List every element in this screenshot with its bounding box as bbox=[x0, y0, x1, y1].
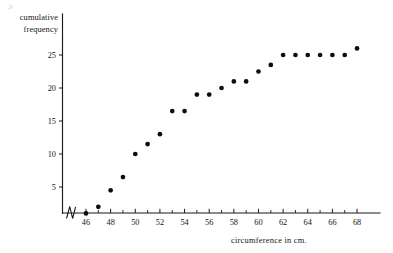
data-point bbox=[305, 53, 310, 58]
y-tick-label-20: 20 bbox=[48, 84, 56, 93]
data-point bbox=[330, 53, 335, 58]
data-point bbox=[355, 46, 360, 51]
x-axis-tick-labels: 464850525456586062646668 bbox=[82, 218, 361, 227]
data-point bbox=[318, 53, 323, 58]
x-axis-title: circumference in cm. bbox=[231, 236, 307, 245]
x-tick-label-66: 66 bbox=[328, 218, 336, 227]
data-point bbox=[244, 79, 249, 84]
x-tick-label-68: 68 bbox=[353, 218, 361, 227]
y-axis-tick-labels: 510152025 bbox=[48, 51, 56, 192]
data-point bbox=[170, 109, 175, 114]
x-tick-label-46: 46 bbox=[82, 218, 90, 227]
data-point-series bbox=[84, 46, 360, 216]
data-point bbox=[256, 69, 261, 74]
axis-break-symbol bbox=[67, 207, 76, 219]
data-point bbox=[96, 204, 101, 209]
y-tick-label-10: 10 bbox=[48, 150, 56, 159]
data-point bbox=[268, 63, 273, 68]
data-point bbox=[195, 92, 200, 97]
chart-plot-area: 510152025 464850525456586062646668 circu… bbox=[0, 0, 393, 253]
x-tick-label-62: 62 bbox=[279, 218, 287, 227]
x-tick-label-60: 60 bbox=[254, 218, 262, 227]
cumulative-frequency-chart: 510152025 464850525456586062646668 circu… bbox=[0, 0, 393, 253]
x-tick-label-64: 64 bbox=[304, 218, 313, 227]
data-point bbox=[108, 188, 113, 193]
y-tick-label-25: 25 bbox=[48, 51, 56, 60]
data-point bbox=[293, 53, 298, 58]
y-tick-label-5: 5 bbox=[52, 183, 56, 192]
x-tick-label-50: 50 bbox=[131, 218, 139, 227]
data-point bbox=[182, 109, 187, 114]
data-point bbox=[207, 92, 212, 97]
data-point bbox=[219, 86, 224, 91]
data-point bbox=[133, 152, 138, 157]
y-tick-label-15: 15 bbox=[48, 117, 56, 126]
data-point bbox=[84, 211, 89, 216]
x-tick-label-56: 56 bbox=[205, 218, 213, 227]
y-axis-title-line1: cumulative bbox=[20, 13, 58, 22]
data-point bbox=[121, 175, 126, 180]
data-point bbox=[342, 53, 347, 58]
data-point bbox=[158, 132, 163, 137]
x-tick-label-48: 48 bbox=[106, 218, 114, 227]
y-axis-title-line2: frequency bbox=[24, 25, 59, 34]
x-tick-label-58: 58 bbox=[230, 218, 238, 227]
x-tick-label-52: 52 bbox=[156, 218, 164, 227]
data-point bbox=[231, 79, 236, 84]
data-point bbox=[145, 142, 150, 147]
x-tick-label-54: 54 bbox=[180, 218, 189, 227]
data-point bbox=[281, 53, 286, 58]
x-axis-ticks bbox=[86, 209, 357, 213]
